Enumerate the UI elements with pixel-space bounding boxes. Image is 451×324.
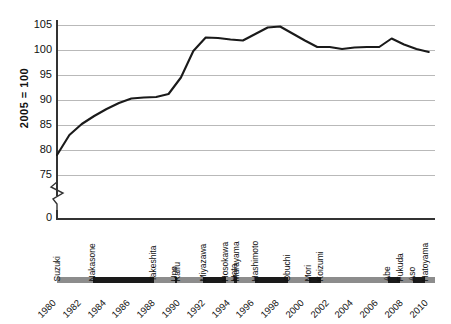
series-line — [57, 20, 435, 220]
plot-area — [57, 20, 435, 220]
chart-container: 2005 = 100 07580859095100105 SuzukiNakas… — [0, 0, 451, 324]
year-label-1998: 1998 — [259, 298, 281, 320]
pm-label-hatoyama: Hatoyama — [420, 242, 429, 281]
year-label-2006: 2006 — [358, 298, 380, 320]
y-tick-label-85: 85 — [26, 119, 52, 130]
year-label-1984: 1984 — [85, 298, 107, 320]
pm-label-obuchi: Obuchi — [283, 254, 292, 281]
pm-label-mori: Mori — [304, 264, 313, 281]
pm-label-hashimoto: Hashimoto — [250, 240, 259, 281]
pm-label-fukuda: Fukuda — [395, 253, 404, 281]
year-label-1982: 1982 — [61, 298, 83, 320]
pm-label-aso: Aso — [408, 266, 417, 281]
y-tick-label-95: 95 — [26, 69, 52, 80]
y-axis-tick-labels: 07580859095100105 — [22, 0, 52, 324]
year-label-1988: 1988 — [135, 298, 157, 320]
pm-label-abe: Abe — [383, 266, 392, 281]
y-axis-line-lower — [56, 210, 58, 219]
pm-label-suzuki: Suzuki — [52, 255, 61, 281]
data-line-index — [57, 27, 429, 156]
year-label-2010: 2010 — [408, 298, 430, 320]
y-tick-label-105: 105 — [26, 19, 52, 30]
year-label-1994: 1994 — [209, 298, 231, 320]
year-label-2000: 2000 — [284, 298, 306, 320]
year-label-1986: 1986 — [110, 298, 132, 320]
prime-minister-timeline-bar — [57, 277, 435, 283]
year-label-2008: 2008 — [383, 298, 405, 320]
y-tick-label-80: 80 — [26, 144, 52, 155]
pm-segment-nakasone — [93, 277, 154, 283]
y-tick-label-0: 0 — [26, 212, 52, 223]
y-tick-label-90: 90 — [26, 94, 52, 105]
year-label-1992: 1992 — [185, 298, 207, 320]
pm-label-murayama: Murayama — [232, 241, 241, 281]
pm-label-takeshita: Takeshita — [149, 245, 158, 281]
y-tick-label-100: 100 — [26, 44, 52, 55]
pm-label-koizumi: Koizumi — [316, 251, 325, 281]
year-label-2004: 2004 — [333, 298, 355, 320]
pm-label-kaifu: Kaifu — [172, 262, 181, 281]
year-label-1990: 1990 — [160, 298, 182, 320]
year-label-1996: 1996 — [234, 298, 256, 320]
pm-label-nakasone: Nakasone — [88, 243, 97, 281]
pm-label-miyazawa: Miyazawa — [198, 243, 207, 281]
year-label-2002: 2002 — [308, 298, 330, 320]
